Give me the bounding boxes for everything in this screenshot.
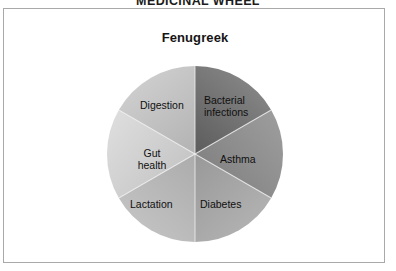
chart-title: Fenugreek: [4, 30, 386, 45]
banner-title: MEDICINAL WHEEL: [0, 0, 396, 8]
pie-chart: [105, 64, 285, 244]
figure-panel: Fenugreek: [3, 8, 385, 263]
pie-chart-svg: [105, 64, 285, 244]
